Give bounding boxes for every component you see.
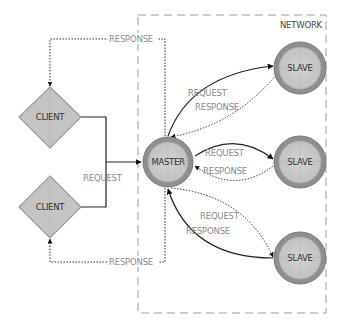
master-label: MASTER — [151, 157, 185, 167]
slave1-request-label: REQUEST — [188, 88, 228, 98]
master-node: MASTER — [143, 137, 193, 187]
slave2-edges: REQUEST RESPONSE — [195, 144, 273, 181]
client-master-slave-diagram: NETWORK REQUEST RESPONSE RESPONSE REQUES… — [0, 0, 339, 328]
slave1-response-label: RESPONSE — [195, 102, 239, 112]
slave3-request-label: REQUEST — [200, 211, 240, 221]
slave-node-1: SLAVE — [274, 42, 326, 94]
slave1-edges: REQUEST RESPONSE — [168, 66, 276, 137]
slave3-edges: REQUEST RESPONSE — [168, 188, 273, 258]
slave-node-3: SLAVE — [274, 232, 326, 284]
client1-label: CLIENT — [36, 112, 65, 122]
client1-response-label: RESPONSE — [109, 34, 153, 44]
slave2-label: SLAVE — [287, 157, 312, 167]
network-label: NETWORK — [280, 20, 323, 30]
clients-request-label: REQUEST — [83, 173, 123, 183]
slave3-label: SLAVE — [287, 253, 312, 263]
slave2-response-label: RESPONSE — [203, 166, 247, 176]
slave1-label: SLAVE — [287, 63, 312, 73]
client-node-2: CLIENT — [19, 176, 81, 238]
client2-label: CLIENT — [36, 202, 65, 212]
slave-node-2: SLAVE — [274, 136, 326, 188]
clients-request-edge: REQUEST — [81, 117, 141, 207]
client2-response-label: RESPONSE — [109, 257, 153, 267]
client-node-1: CLIENT — [19, 87, 81, 148]
slave2-request-label: REQUEST — [205, 148, 245, 158]
slave3-response-label: RESPONSE — [186, 226, 230, 236]
